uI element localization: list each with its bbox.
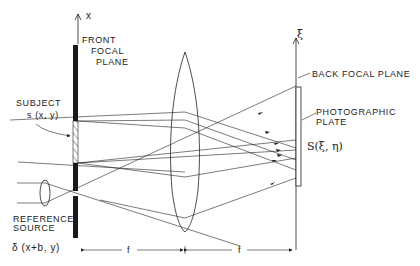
focal-length-right-label: f	[238, 245, 241, 255]
subject-function-label: s (x, y)	[27, 110, 59, 120]
photographic-plate-label-2: PLATE	[316, 117, 347, 127]
focal-length-dimension	[84, 246, 292, 254]
front-focal-plane-label-1: FRONT	[82, 35, 116, 45]
reference-source-label-2: SOURCE	[13, 223, 55, 233]
spectrum-function-label: S(ξ, η)	[307, 142, 343, 152]
back-focal-leader	[298, 73, 310, 78]
x-axis-label: x	[86, 11, 92, 21]
optical-diagram: x ξ FRONT FOCAL PLANE SUBJECT s (x, y) R…	[0, 0, 420, 266]
focal-length-left-label: f	[127, 245, 130, 255]
xi-axis-label: ξ	[297, 30, 303, 40]
photographic-plate-label-1: PHOTOGRAPHIC	[316, 107, 396, 117]
front-focal-plane-label-2: FOCAL	[91, 46, 124, 56]
subject-label: SUBJECT	[16, 98, 61, 108]
optical-layout	[0, 0, 420, 266]
photographic-plate	[296, 87, 301, 186]
reference-function-label: δ (x+b, y)	[12, 243, 60, 253]
subject-pointer	[36, 124, 70, 136]
front-focal-plane-mask	[73, 45, 78, 238]
fourier-lens	[171, 52, 200, 232]
back-focal-plane-label: BACK FOCAL PLANE	[312, 69, 410, 79]
light-rays	[10, 112, 296, 218]
front-focal-plane-label-3: PLANE	[96, 57, 129, 67]
ray-arrowheads	[258, 112, 282, 185]
plate-leader	[302, 113, 316, 120]
x-axis-arrow	[75, 14, 81, 44]
